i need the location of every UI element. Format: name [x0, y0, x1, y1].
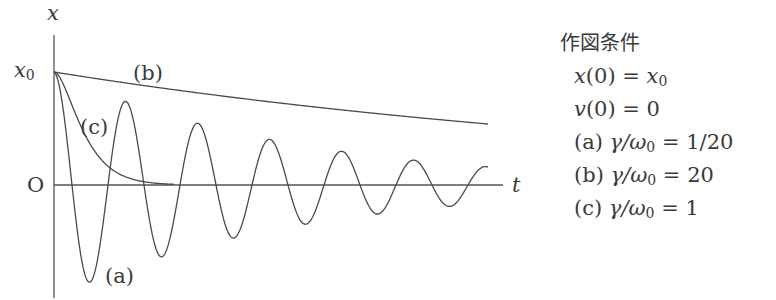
plot-conditions: 作図条件 x(0) = x0 v(0) = 0 (a) γ/ω0 = 1/20 … — [560, 27, 733, 225]
condition-initial-velocity: v(0) = 0 — [560, 93, 733, 126]
origin-label: O — [27, 175, 44, 196]
condition-initial-position: x(0) = x0 — [560, 60, 733, 93]
condition-case-b: (b) γ/ω0 = 20 — [560, 159, 733, 192]
y-axis-label: x — [47, 3, 59, 24]
x-axis-label: t — [512, 175, 520, 196]
curve-c-label: (c) — [80, 117, 108, 138]
curve-b-label: (b) — [133, 63, 163, 84]
condition-case-c: (c) γ/ω0 = 1 — [560, 192, 733, 225]
curve-a-underdamped — [54, 72, 488, 282]
conditions-heading: 作図条件 — [560, 27, 733, 60]
condition-case-a: (a) γ/ω0 = 1/20 — [560, 126, 733, 159]
x0-tick-label: x0 — [14, 60, 35, 82]
curve-c-critical — [54, 72, 174, 184]
curve-a-label: (a) — [105, 266, 134, 287]
